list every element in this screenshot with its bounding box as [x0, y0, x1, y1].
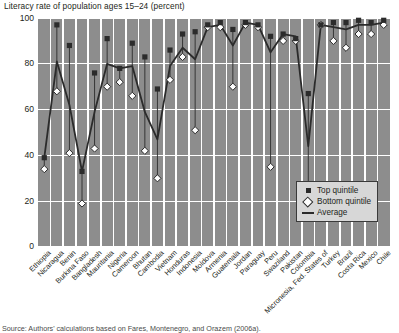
top-quintile-marker — [117, 66, 122, 71]
bottom-quintile-marker — [78, 200, 85, 207]
top-quintile-marker — [92, 70, 97, 75]
bottom-quintile-marker — [229, 83, 236, 90]
y-tick-label: 100 — [4, 14, 34, 23]
top-quintile-marker — [42, 155, 47, 160]
top-quintile-marker — [293, 36, 298, 41]
top-quintile-marker — [167, 47, 172, 52]
bottom-quintile-marker — [192, 127, 199, 134]
bottom-quintile-marker — [179, 53, 186, 60]
bottom-quintile-marker — [66, 150, 73, 157]
top-quintile-marker — [381, 18, 386, 23]
figure-container: Literacy rate of population ages 15–24 (… — [0, 0, 399, 333]
bottom-quintile-marker — [116, 79, 123, 86]
legend-label: Top quintile — [315, 186, 358, 196]
bottom-quintile-marker — [91, 145, 98, 152]
top-quintile-marker — [243, 20, 248, 25]
top-quintile-marker — [281, 31, 286, 36]
bottom-quintile-marker — [342, 44, 349, 51]
top-quintile-marker — [230, 27, 235, 32]
bottom-quintile-marker — [154, 175, 161, 182]
line-marker-icon — [301, 212, 315, 214]
y-tick-label: 80 — [4, 59, 34, 68]
y-tick-label: 60 — [4, 105, 34, 114]
bottom-quintile-marker — [41, 166, 48, 173]
x-axis-labels: EthiopiaNicaraguaBeninBurkina FasoBangla… — [38, 249, 390, 319]
bottom-quintile-marker — [141, 147, 148, 154]
y-tick-label: 0 — [4, 242, 34, 251]
top-quintile-marker — [268, 34, 273, 39]
legend-item-bottom-quintile: Bottom quintile — [301, 196, 371, 207]
top-quintile-marker — [306, 91, 311, 96]
top-quintile-marker — [105, 36, 110, 41]
top-quintile-marker — [79, 169, 84, 174]
diamond-marker-icon — [301, 198, 315, 206]
source-note: Source: Authors' calculations based on F… — [2, 325, 261, 333]
top-quintile-marker — [318, 22, 323, 27]
bottom-quintile-marker — [267, 163, 274, 170]
top-quintile-marker — [155, 86, 160, 91]
y-tick-label: 20 — [4, 197, 34, 206]
square-marker-icon — [301, 188, 315, 193]
top-quintile-marker — [356, 18, 361, 23]
bottom-quintile-marker — [368, 30, 375, 37]
legend-item-top-quintile: Top quintile — [301, 185, 371, 196]
top-quintile-marker — [331, 20, 336, 25]
bottom-quintile-marker — [129, 92, 136, 99]
top-quintile-marker — [369, 20, 374, 25]
top-quintile-marker — [205, 22, 210, 27]
top-quintile-marker — [343, 20, 348, 25]
legend-label: Bottom quintile — [315, 197, 371, 207]
bottom-quintile-marker — [330, 37, 337, 44]
legend: Top quintile Bottom quintile Average — [296, 181, 378, 222]
top-quintile-marker — [193, 29, 198, 34]
top-quintile-marker — [255, 22, 260, 27]
top-quintile-marker — [54, 22, 59, 27]
y-axis: 100 80 60 40 20 0 — [0, 0, 34, 265]
top-quintile-marker — [180, 31, 185, 36]
top-quintile-marker — [67, 43, 72, 48]
legend-item-average: Average — [301, 207, 371, 218]
y-tick-label: 40 — [4, 151, 34, 160]
bottom-quintile-marker — [53, 88, 60, 95]
bottom-quintile-marker — [104, 83, 111, 90]
top-quintile-marker — [142, 54, 147, 59]
top-quintile-marker — [218, 20, 223, 25]
bottom-quintile-marker — [355, 30, 362, 37]
legend-label: Average — [315, 208, 347, 218]
top-quintile-marker — [130, 41, 135, 46]
